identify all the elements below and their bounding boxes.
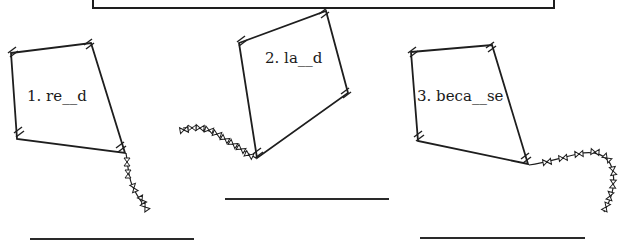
kites-illustration: [0, 0, 627, 243]
answer-line-3[interactable]: [420, 237, 585, 239]
kite-1-tail: [126, 153, 146, 208]
kite-3-label: 3. beca__se: [417, 89, 503, 104]
kite-3-tail: [529, 153, 614, 212]
answer-line-2[interactable]: [225, 198, 389, 200]
kite-3: [408, 42, 617, 212]
kite-2: [180, 8, 351, 159]
kite-1: [8, 39, 150, 212]
kite-3-corner-clip: [414, 131, 424, 141]
kite-2-label: 2. la__d: [265, 51, 322, 66]
answer-line-1[interactable]: [30, 238, 194, 240]
kite-1-label: 1. re__d: [27, 89, 87, 104]
